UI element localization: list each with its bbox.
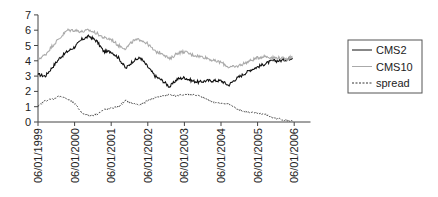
series-line-cms2 (38, 35, 292, 87)
x-tick-label: 06/01/2002 (142, 128, 154, 183)
y-tick-label: 5 (25, 40, 31, 52)
legend-label: spread (376, 77, 410, 89)
y-tick-label: 6 (25, 24, 31, 36)
y-ticks: 01234567 (25, 9, 38, 128)
legend: CMS2CMS10spread (348, 40, 422, 93)
x-tick-label: 06/01/2006 (288, 128, 300, 183)
x-ticks: 06/01/199906/01/200006/01/200106/01/2002… (32, 122, 300, 183)
x-tick-label: 06/01/2001 (105, 128, 117, 183)
legend-label: CMS2 (376, 44, 407, 56)
series-line-cms10 (38, 29, 292, 68)
legend-label: CMS10 (376, 61, 413, 73)
y-tick-label: 3 (25, 70, 31, 82)
x-tick-label: 06/01/2004 (215, 128, 227, 183)
y-tick-label: 1 (25, 101, 31, 113)
y-tick-label: 7 (25, 9, 31, 21)
x-tick-label: 06/01/1999 (32, 128, 44, 183)
x-tick-label: 06/01/2000 (69, 128, 81, 183)
plot-area: 01234567 06/01/199906/01/200006/01/20010… (25, 9, 311, 183)
y-tick-label: 0 (25, 116, 31, 128)
x-tick-label: 06/01/2003 (178, 128, 190, 183)
x-tick-label: 06/01/2005 (252, 128, 264, 183)
series-line-spread (38, 94, 292, 122)
series-group (38, 29, 292, 121)
y-tick-label: 2 (25, 85, 31, 97)
y-tick-label: 4 (25, 55, 31, 67)
line-chart: 01234567 06/01/199906/01/200006/01/20010… (0, 0, 438, 197)
